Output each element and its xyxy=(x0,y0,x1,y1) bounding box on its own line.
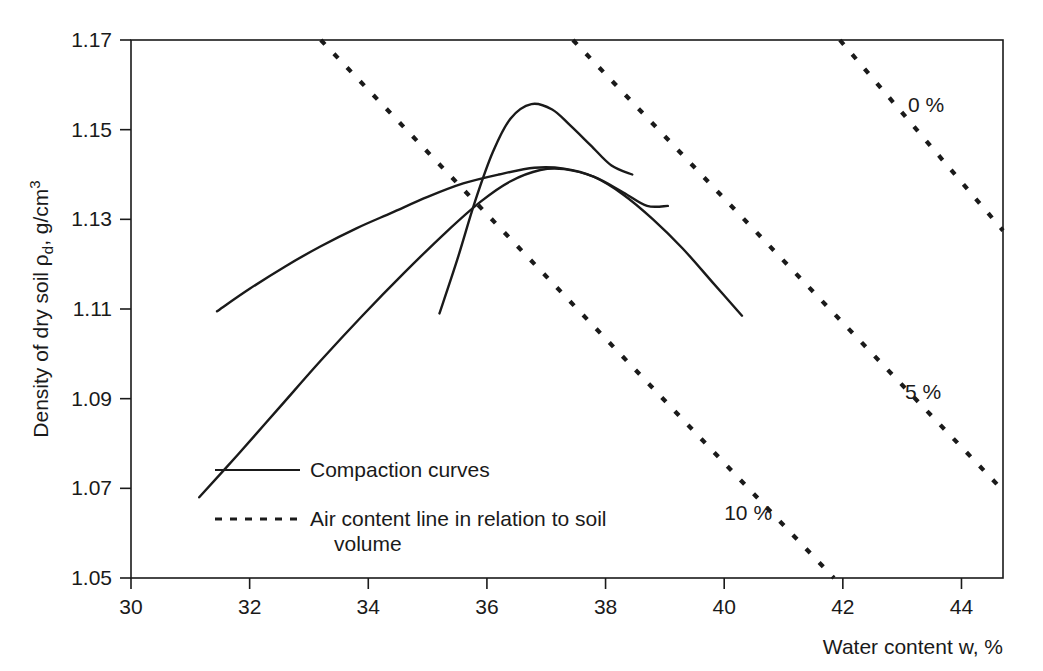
y-tick-label: 1.15 xyxy=(71,118,112,141)
x-tick-label: 40 xyxy=(713,595,736,618)
x-tick-label: 30 xyxy=(119,595,142,618)
x-tick-label: 32 xyxy=(238,595,261,618)
compaction-curve-3 xyxy=(439,104,632,314)
y-tick-label: 1.05 xyxy=(71,566,112,589)
y-axis-ticks: 1.051.071.091.111.131.151.17 xyxy=(71,28,131,589)
x-tick-label: 42 xyxy=(831,595,854,618)
x-tick-label: 44 xyxy=(950,595,974,618)
air-content-labels-group: 0 %5 %10 % xyxy=(724,93,944,524)
x-axis-title: Water content w, % xyxy=(823,635,1003,658)
air-content-10-line xyxy=(321,40,834,578)
x-axis-ticks: 3032343638404244 xyxy=(119,578,973,618)
x-tick-label: 36 xyxy=(475,595,498,618)
y-tick-label: 1.07 xyxy=(71,476,112,499)
air-content-0-label: 0 % xyxy=(908,93,944,116)
y-tick-label: 1.11 xyxy=(73,297,112,320)
air-content-lines-group xyxy=(321,40,1003,578)
chart-container: 1.051.071.091.111.131.151.17 30323436384… xyxy=(0,0,1043,671)
air-content-0-line xyxy=(840,40,1003,231)
y-tick-label: 1.13 xyxy=(71,207,112,230)
legend-air-content-label-line2: volume xyxy=(334,532,402,555)
y-tick-label: 1.09 xyxy=(71,387,112,410)
legend-compaction-label: Compaction curves xyxy=(310,458,490,481)
chart-legend: Compaction curves Air content line in re… xyxy=(215,458,607,555)
x-tick-label: 34 xyxy=(357,595,381,618)
air-content-5-label: 5 % xyxy=(905,380,941,403)
air-content-10-label: 10 % xyxy=(724,501,772,524)
y-tick-label: 1.17 xyxy=(71,28,112,51)
legend-air-content-label: Air content line in relation to soil xyxy=(310,507,607,530)
chart-canvas: 1.051.071.091.111.131.151.17 30323436384… xyxy=(0,0,1043,671)
y-axis-title-text: Density of dry soil ρd, g/cm3 xyxy=(26,180,56,437)
y-axis-title: Density of dry soil ρd, g/cm3 xyxy=(26,180,56,437)
x-tick-label: 38 xyxy=(594,595,617,618)
compaction-curves-group xyxy=(199,104,742,498)
